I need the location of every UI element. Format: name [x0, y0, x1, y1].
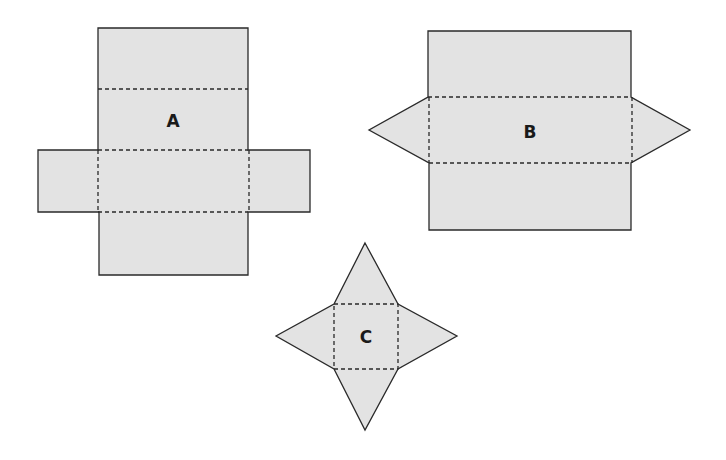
net-b: B	[369, 31, 690, 230]
net-c: C	[276, 243, 457, 430]
net-b-label: B	[524, 122, 537, 142]
nets-diagram: A B C	[0, 0, 726, 460]
net-a-label: A	[166, 111, 180, 131]
net-a-fill	[38, 28, 310, 275]
net-c-label: C	[360, 327, 372, 347]
net-a: A	[38, 28, 310, 275]
